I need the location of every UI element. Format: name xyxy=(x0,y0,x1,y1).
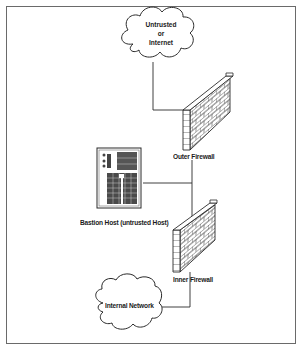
bastion-host-server-icon xyxy=(97,148,141,208)
outer-firewall-wall-icon xyxy=(183,73,233,150)
internal-network-label: Internal Network xyxy=(105,301,154,310)
internet-label: Untrusted or Internet xyxy=(142,20,180,47)
internet-label-line1: Untrusted xyxy=(142,20,180,29)
bastion-host-label: Bastion Host (untrusted Host) xyxy=(80,218,169,227)
diagram-canvas xyxy=(0,0,303,351)
inner-firewall-wall-icon xyxy=(173,200,217,272)
internet-label-line2: or xyxy=(142,29,180,38)
internet-label-line3: Internet xyxy=(142,38,180,47)
outer-firewall-label: Outer Firewall xyxy=(173,152,214,161)
connection-lines xyxy=(143,62,192,307)
inner-firewall-label: Inner Firewall xyxy=(173,275,213,284)
